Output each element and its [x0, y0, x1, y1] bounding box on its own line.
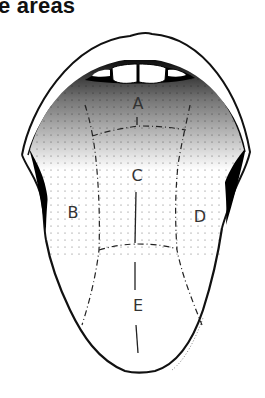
zone-label-a: A	[133, 94, 144, 113]
zone-label-b: B	[68, 203, 79, 222]
zone-label-c: C	[131, 166, 142, 185]
zone-label-d: D	[194, 207, 206, 226]
zone-label-e: E	[133, 296, 143, 315]
tongue-diagram: A B C D E	[0, 0, 265, 398]
